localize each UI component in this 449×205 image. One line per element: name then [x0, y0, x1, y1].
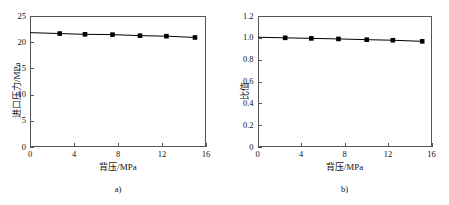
y-tick-mark [258, 147, 262, 148]
data-point-marker [110, 32, 115, 37]
x-tick-label: 12 [149, 150, 175, 158]
data-point-marker [164, 34, 169, 39]
x-tick-label: 8 [332, 150, 358, 158]
x-tick-label: 0 [17, 150, 43, 158]
y-tick-mark [30, 121, 34, 122]
y-tick-mark [30, 16, 34, 17]
series-layer-a [0, 0, 224, 205]
x-tick-mark [301, 143, 302, 147]
x-tick-mark [206, 143, 207, 147]
x-tick-mark [162, 143, 163, 147]
panel-a: 05101520250481216 进口压力/MPa 背压/MPa a) [0, 0, 225, 205]
y-tick-mark [258, 38, 262, 39]
data-point-marker [282, 36, 287, 41]
x-tick-label: 4 [288, 150, 314, 158]
y-tick-label: 20 [0, 38, 26, 46]
data-point-marker [57, 31, 62, 36]
y-axis-title-b: 比值 [238, 82, 251, 100]
panel-caption-a: a) [98, 184, 138, 194]
x-tick-mark [74, 143, 75, 147]
figure-two-panel: 05101520250481216 进口压力/MPa 背压/MPa a) 00.… [0, 0, 449, 205]
y-tick-mark [30, 68, 34, 69]
x-tick-label: 0 [245, 150, 271, 158]
panel-b: 00.20.40.60.81.01.20481216 比值 背压/MPa b) [225, 0, 449, 205]
y-tick-label: 1.0 [228, 33, 254, 41]
y-tick-label: 1.2 [228, 12, 254, 20]
data-point-marker [193, 35, 198, 40]
y-tick-mark [258, 82, 262, 83]
y-tick-mark [258, 60, 262, 61]
data-point-marker [138, 33, 143, 38]
data-point-marker [83, 32, 88, 37]
x-tick-mark [258, 143, 259, 147]
x-axis-title-b: 背压/MPa [285, 160, 405, 173]
x-tick-mark [118, 143, 119, 147]
x-tick-label: 4 [61, 150, 87, 158]
x-tick-mark [432, 143, 433, 147]
y-tick-label: 0.2 [228, 121, 254, 129]
x-tick-label: 16 [419, 150, 445, 158]
y-axis-title-a: 进口压力/MPa [10, 62, 23, 118]
panel-caption-b: b) [325, 184, 365, 194]
x-tick-mark [345, 143, 346, 147]
x-tick-mark [388, 143, 389, 147]
y-tick-mark [30, 95, 34, 96]
data-point-marker [419, 39, 424, 44]
x-tick-label: 8 [105, 150, 131, 158]
data-point-marker [308, 36, 313, 41]
y-tick-label: 0.8 [228, 55, 254, 63]
y-tick-mark [30, 147, 34, 148]
y-tick-mark [258, 125, 262, 126]
y-tick-mark [30, 42, 34, 43]
x-tick-label: 12 [375, 150, 401, 158]
y-tick-mark [258, 16, 262, 17]
data-point-marker [390, 38, 395, 43]
y-tick-label: 25 [0, 12, 26, 20]
x-tick-label: 16 [193, 150, 219, 158]
y-tick-mark [258, 103, 262, 104]
x-axis-title-a: 背压/MPa [58, 160, 178, 173]
data-point-marker [364, 37, 369, 42]
data-point-marker [336, 37, 341, 42]
x-tick-mark [30, 143, 31, 147]
